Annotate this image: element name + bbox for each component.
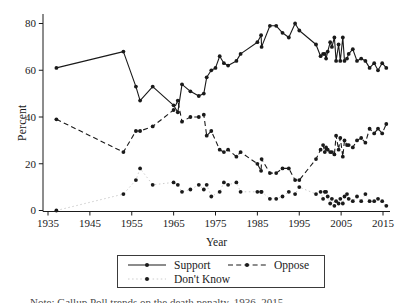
don-t-know-marker [222, 181, 226, 185]
don-t-know-marker [293, 192, 297, 196]
oppose-marker [347, 143, 351, 147]
support-marker [176, 110, 180, 114]
support-marker [205, 75, 209, 79]
support-marker [368, 66, 372, 70]
support-marker [180, 82, 184, 86]
oppose-marker [197, 115, 201, 119]
y-tick-label: 80 [25, 17, 37, 29]
oppose-marker [122, 150, 126, 154]
support-marker [172, 103, 176, 107]
support-marker [260, 45, 264, 49]
x-tick-label: 2015 [372, 217, 395, 229]
don-t-know-marker [341, 202, 345, 206]
oppose-line [56, 101, 386, 181]
don-t-know-marker [138, 167, 142, 171]
x-axis-title: Year [43, 236, 390, 248]
support-marker [324, 57, 328, 61]
support-marker [134, 85, 138, 89]
don-t-know-marker [384, 204, 388, 208]
x-tick-label: 1935 [37, 217, 60, 229]
don-t-know-marker [297, 185, 301, 189]
chart-legend: Support Oppose Don't Know [117, 255, 325, 288]
support-marker [330, 45, 334, 49]
oppose-marker [380, 132, 384, 136]
y-tick-label: 20 [25, 158, 37, 170]
oppose-marker [293, 178, 297, 182]
oppose-marker [235, 155, 239, 159]
x-tick-label: 1995 [288, 217, 311, 229]
y-tick-label: 60 [25, 64, 37, 76]
oppose-marker [337, 148, 341, 152]
oppose-marker [259, 169, 263, 173]
don-t-know-marker [351, 199, 355, 203]
don-t-know-marker [376, 197, 380, 201]
oppose-marker [372, 132, 376, 136]
x-tick-label: 1945 [79, 217, 102, 229]
don-t-know-marker [324, 190, 328, 194]
don-t-know-marker [333, 204, 337, 208]
legend-label-oppose: Oppose [274, 259, 309, 271]
don-t-know-marker [151, 183, 155, 187]
oppose-marker [274, 171, 278, 175]
don-t-know-marker [380, 199, 384, 203]
don-t-know-marker [281, 195, 285, 199]
x-tick-label: 1965 [163, 217, 186, 229]
legend-item-dont-know: Don't Know [127, 272, 227, 286]
support-marker [122, 50, 126, 54]
don-t-know-marker [122, 192, 126, 196]
support-marker [239, 52, 243, 56]
y-axis-title: Percent [16, 104, 28, 141]
x-tick-label: 2005 [330, 217, 353, 229]
don-t-know-marker [274, 197, 278, 201]
oppose-marker [55, 117, 59, 121]
support-marker [338, 59, 342, 63]
support-marker [226, 64, 230, 68]
oppose-marker [209, 129, 213, 133]
support-marker [347, 52, 351, 56]
don-t-know-marker [172, 181, 176, 185]
x-tick-label: 1955 [121, 217, 144, 229]
oppose-marker [189, 115, 193, 119]
support-marker [209, 68, 213, 72]
don-t-know-marker [321, 197, 325, 201]
oppose-marker [260, 157, 264, 161]
support-marker [259, 33, 263, 37]
don-t-know-marker [330, 197, 334, 201]
support-marker [274, 24, 278, 28]
don-t-know-marker [268, 197, 272, 201]
support-marker [333, 36, 337, 40]
don-t-know-marker [368, 199, 372, 203]
support-marker [214, 66, 218, 70]
oppose-marker [319, 148, 323, 152]
don-t-know-marker [355, 195, 359, 199]
don-t-know-marker [319, 190, 323, 194]
don-t-know-marker [326, 195, 330, 199]
don-t-know-marker [235, 181, 239, 185]
support-line [56, 24, 386, 113]
support-marker [314, 43, 318, 47]
oppose-marker [138, 129, 142, 133]
don-t-know-marker [239, 190, 243, 194]
legend-item-oppose: Oppose [227, 258, 324, 272]
support-marker [326, 50, 330, 54]
oppose-marker [268, 171, 272, 175]
oppose-marker [314, 157, 318, 161]
support-marker [138, 99, 142, 103]
oppose-marker [341, 155, 345, 159]
support-marker [334, 59, 338, 63]
don-t-know-marker [55, 209, 59, 213]
oppose-marker [172, 108, 176, 112]
oppose-marker [338, 136, 342, 140]
oppose-marker [256, 162, 260, 166]
don-t-know-marker [256, 190, 260, 194]
support-marker [222, 61, 226, 65]
oppose-marker [321, 143, 325, 147]
oppose-marker [180, 120, 184, 124]
legend-label-dont-know: Don't Know [174, 273, 230, 285]
don-t-know-marker [226, 183, 230, 187]
don-t-know-marker [176, 183, 180, 187]
support-marker [341, 36, 345, 40]
support-marker [351, 47, 355, 51]
oppose-marker [205, 134, 209, 138]
oppose-marker [368, 127, 372, 131]
